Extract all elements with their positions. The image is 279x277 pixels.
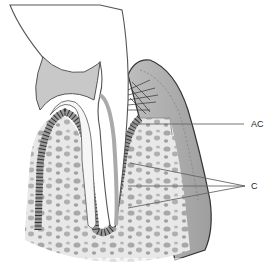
label-ac: AC <box>251 119 264 129</box>
tooth-anatomy-diagram <box>0 0 279 277</box>
label-c: C <box>251 181 258 191</box>
